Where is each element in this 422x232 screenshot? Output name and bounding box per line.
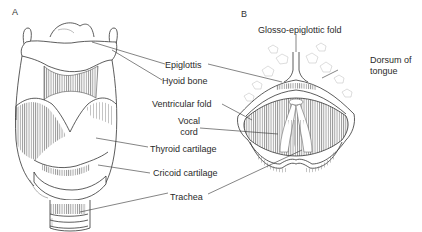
label-hyoid-bone: Hyoid bone	[162, 76, 208, 86]
panel-a-letter: A	[12, 7, 18, 17]
label-glosso-epiglottic-fold: Glosso-epiglottic fold	[258, 25, 342, 35]
panel-a-drawing	[15, 23, 117, 231]
larynx-diagram: A B Epiglottis Hyoid bone Thyroid cartil…	[0, 0, 422, 232]
diagram-drawing	[0, 0, 422, 232]
label-vocal-cord-line1: Vocal	[174, 116, 204, 126]
panel-b-letter: B	[241, 9, 247, 19]
label-trachea: Trachea	[170, 192, 203, 202]
label-vocal-cord-line2: cord	[174, 127, 204, 137]
label-dorsum-of-tongue-line2: tongue	[370, 66, 398, 76]
label-ventricular-fold: Ventricular fold	[152, 99, 212, 109]
label-cricoid-cartilage: Cricoid cartilage	[153, 168, 218, 178]
label-dorsum-of-tongue-line1: Dorsum of	[370, 55, 412, 65]
label-thyroid-cartilage: Thyroid cartilage	[150, 144, 217, 154]
label-epiglottis: Epiglottis	[165, 60, 202, 70]
